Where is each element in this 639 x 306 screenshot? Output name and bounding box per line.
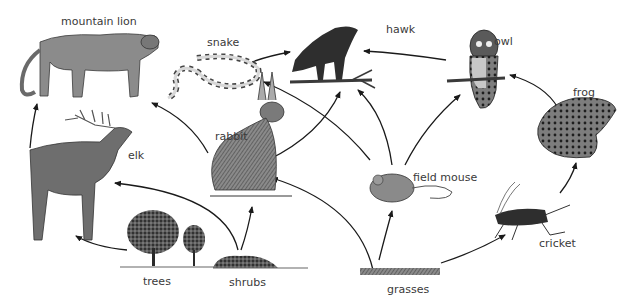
hawk-illustration (290, 26, 375, 88)
food-web-diagram: mountain lion snake hawk owl frog rabbit… (0, 0, 639, 306)
arrow-rabbit-to-mountain-lion (152, 103, 208, 153)
label-elk: elk (128, 150, 144, 162)
arrow-snake-to-hawk (252, 52, 290, 62)
label-cricket: cricket (539, 238, 576, 250)
arrow-elk-to-mountain-lion (30, 104, 37, 148)
label-hawk: hawk (386, 24, 415, 36)
frog-illustration (538, 98, 616, 158)
cricket-illustration (495, 182, 570, 240)
label-mountain-lion: mountain lion (61, 16, 137, 28)
grasses-illustration (360, 268, 440, 275)
arrow-grasses-to-rabbit (272, 178, 373, 270)
mountain-lion-illustration (22, 34, 159, 97)
label-shrubs: shrubs (229, 277, 266, 289)
label-grasses: grasses (387, 284, 429, 296)
arrow-frog-to-owl (510, 75, 558, 108)
arrow-owl-to-hawk (364, 51, 446, 60)
arrow-field-mouse-to-owl (405, 95, 460, 165)
arrow-field-mouse-to-hawk (358, 90, 392, 165)
arrow-shrubs-to-rabbit (241, 207, 252, 250)
label-rabbit: rabbit (215, 131, 248, 143)
arrow-field-mouse-to-snake (264, 82, 370, 160)
shrubs-illustration (213, 256, 308, 268)
label-trees: trees (143, 276, 171, 288)
label-snake: snake (207, 37, 239, 49)
elk-illustration (30, 110, 132, 240)
trees-illustration (120, 210, 215, 267)
snake-illustration (168, 56, 259, 98)
food-web-illustration (0, 0, 639, 306)
label-field-mouse: field mouse (413, 172, 477, 184)
arrow-cricket-to-frog (560, 163, 576, 193)
label-owl: owl (494, 36, 513, 48)
arrow-grasses-to-cricket (441, 235, 505, 263)
arrow-grasses-to-field-mouse (379, 211, 392, 260)
label-frog: frog (573, 87, 595, 99)
